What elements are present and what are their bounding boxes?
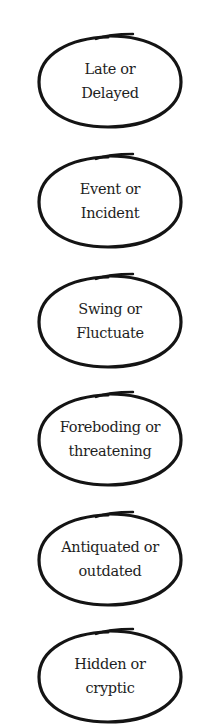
bubble-label: Hidden or cryptic (36, 652, 184, 700)
bubble-3: Swing or Fluctuate (36, 272, 184, 370)
bubble-label-line-2: outdated (36, 559, 184, 583)
bubble-label-line-2: Incident (36, 201, 184, 225)
bubble-5: Antiquated or outdated (36, 510, 184, 608)
bubble-label-line-2: cryptic (36, 676, 184, 700)
bubble-label-line-2: Fluctuate (36, 321, 184, 345)
bubble-label-line-1: Late or (36, 57, 184, 81)
bubble-label: Antiquated or outdated (36, 535, 184, 583)
bubble-label-line-1: Hidden or (36, 652, 184, 676)
bubble-label-line-2: threatening (36, 439, 184, 463)
bubble-label: Late or Delayed (36, 57, 184, 105)
bubble-label: Foreboding or threatening (36, 415, 184, 463)
bubble-label: Swing or Fluctuate (36, 297, 184, 345)
bubble-4: Foreboding or threatening (36, 390, 184, 488)
bubble-2: Event or Incident (36, 152, 184, 250)
bubble-label: Event or Incident (36, 177, 184, 225)
bubble-label-line-1: Antiquated or (36, 535, 184, 559)
bubble-6: Hidden or cryptic (36, 627, 184, 725)
bubble-label-line-1: Swing or (36, 297, 184, 321)
bubble-1: Late or Delayed (36, 32, 184, 130)
bubble-label-line-2: Delayed (36, 81, 184, 105)
bubble-label-line-1: Foreboding or (36, 415, 184, 439)
bubble-label-line-1: Event or (36, 177, 184, 201)
